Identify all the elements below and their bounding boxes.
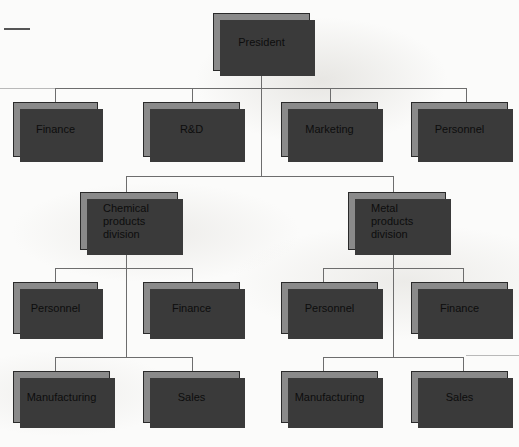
connector-drop-chemical-division	[126, 176, 127, 192]
node-label: President	[234, 36, 288, 49]
node-label: Personnel	[301, 302, 359, 315]
node-president[interactable]: President	[213, 13, 310, 71]
connector-drop-metal-sales	[463, 357, 464, 371]
node-label: Personnel	[27, 302, 85, 315]
node-metal-finance[interactable]: Finance	[411, 282, 508, 334]
connector-chemical-spine	[126, 250, 127, 358]
node-label: Manufacturing	[291, 391, 369, 404]
node-rnd-corp[interactable]: R&D	[143, 102, 240, 157]
connector-level2-bus	[55, 88, 466, 89]
node-label: Manufacturing	[23, 391, 101, 404]
connector-drop-metal-finance	[463, 268, 464, 282]
org-chart-canvas: President Finance R&D Marketing Personne…	[0, 0, 519, 447]
node-label: Finance	[168, 302, 215, 315]
node-finance-corp[interactable]: Finance	[13, 102, 98, 157]
node-label: Marketing	[301, 123, 357, 136]
node-metal-manufacturing[interactable]: Manufacturing	[281, 371, 378, 423]
node-label: Finance	[436, 302, 483, 315]
connector-drop-rnd-corp	[192, 88, 193, 102]
node-personnel-corp[interactable]: Personnel	[411, 102, 508, 157]
scan-artifact-top-left	[4, 28, 30, 30]
connector-drop-metal-manufacturing	[323, 357, 324, 371]
connector-drop-marketing-corp	[330, 88, 331, 102]
connector-chemical-level5-bus	[55, 357, 193, 358]
connector-drop-personnel-corp	[466, 88, 467, 102]
connector-metal-spine	[393, 250, 394, 358]
node-marketing-corp[interactable]: Marketing	[281, 102, 378, 157]
connector-drop-metal-personnel	[323, 268, 324, 282]
node-metal-sales[interactable]: Sales	[411, 371, 508, 423]
connector-metal-level5-bus	[323, 357, 464, 358]
scan-artifact-right-edge	[466, 355, 519, 356]
connector-drop-chem-personnel	[55, 268, 56, 282]
connector-drop-finance-corp	[55, 88, 56, 102]
connector-metal-level4-bus	[323, 268, 464, 269]
connector-drop-chem-finance	[192, 268, 193, 282]
node-chem-finance[interactable]: Finance	[143, 282, 240, 334]
node-chem-sales[interactable]: Sales	[143, 371, 240, 423]
node-label: Sales	[174, 391, 210, 404]
node-chem-manufacturing[interactable]: Manufacturing	[13, 371, 110, 423]
node-label: Sales	[442, 391, 478, 404]
node-label: Finance	[32, 123, 79, 136]
node-label: Metal products division	[349, 202, 417, 241]
node-label: Personnel	[431, 123, 489, 136]
connector-drop-chem-manufacturing	[55, 357, 56, 371]
node-label: R&D	[176, 123, 207, 136]
node-metal-division[interactable]: Metal products division	[348, 192, 446, 250]
connector-divisions-bus	[126, 176, 394, 177]
connector-drop-chem-sales	[192, 357, 193, 371]
connector-chemical-level4-bus	[55, 268, 193, 269]
node-label: Chemical products division	[81, 202, 153, 241]
node-metal-personnel[interactable]: Personnel	[281, 282, 378, 334]
connector-president-spine	[261, 71, 262, 176]
node-chemical-division[interactable]: Chemical products division	[80, 192, 178, 250]
connector-drop-metal-division	[393, 176, 394, 192]
node-chem-personnel[interactable]: Personnel	[13, 282, 98, 334]
scan-artifact-left-edge	[0, 88, 55, 89]
